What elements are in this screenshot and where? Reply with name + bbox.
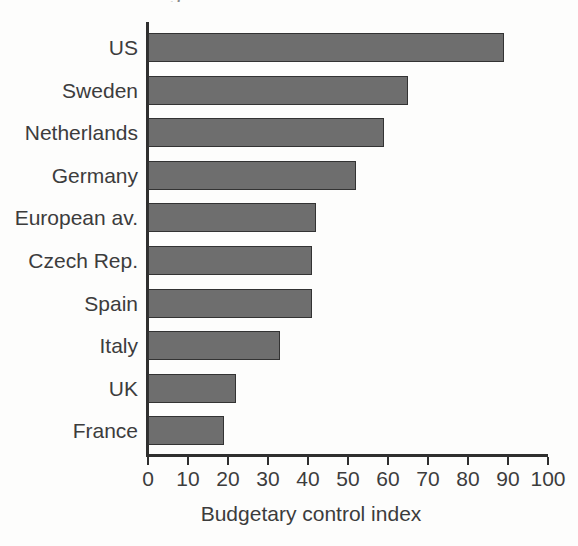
category-label: Czech Rep.	[28, 246, 138, 275]
category-label: Spain	[84, 289, 138, 318]
value-axis-tick-label: 40	[296, 466, 319, 492]
value-axis-tick	[147, 457, 149, 465]
value-axis-tick	[347, 457, 349, 465]
value-axis-tick-label: 80	[456, 466, 479, 492]
bar-row: Germany	[0, 154, 578, 197]
cropped-title-glyph: g	[169, 0, 199, 2]
value-axis-tick	[387, 457, 389, 465]
value-axis-tick	[307, 457, 309, 465]
bar	[148, 33, 504, 62]
category-label: UK	[109, 374, 138, 403]
bar-row: UK	[0, 367, 578, 410]
bar-chart-figure: g 0102030405060708090100 USSwedenNetherl…	[0, 0, 578, 546]
value-axis-tick-label: 100	[530, 466, 565, 492]
bar-row: US	[0, 26, 578, 69]
value-axis-tick	[427, 457, 429, 465]
value-axis-tick-label: 0	[142, 466, 154, 492]
bar	[148, 118, 384, 147]
value-axis-tick	[267, 457, 269, 465]
bar-row: Netherlands	[0, 111, 578, 154]
bar-row: Spain	[0, 282, 578, 325]
value-axis-tick	[187, 457, 189, 465]
value-axis-tick	[227, 457, 229, 465]
bar-row: France	[0, 409, 578, 452]
value-axis-tick	[467, 457, 469, 465]
bar	[148, 374, 236, 403]
category-label: France	[73, 416, 138, 445]
category-label: Italy	[99, 331, 138, 360]
value-axis-tick-label: 30	[256, 466, 279, 492]
bar	[148, 203, 316, 232]
bar-row: Italy	[0, 324, 578, 367]
value-axis-tick	[507, 457, 509, 465]
value-axis-tick-label: 50	[336, 466, 359, 492]
value-axis-tick-label: 10	[176, 466, 199, 492]
value-axis-tick	[547, 457, 549, 465]
category-label: Sweden	[62, 76, 138, 105]
category-label: European av.	[15, 203, 138, 232]
bar	[148, 246, 312, 275]
x-axis-title: Budgetary control index	[0, 500, 578, 528]
bar-row: Czech Rep.	[0, 239, 578, 282]
bar	[148, 331, 280, 360]
bar	[148, 289, 312, 318]
value-axis-tick-label: 70	[416, 466, 439, 492]
value-axis-tick-label: 60	[376, 466, 399, 492]
bar	[148, 416, 224, 445]
bar-row: Sweden	[0, 69, 578, 112]
value-axis-tick-label: 20	[216, 466, 239, 492]
bar	[148, 76, 408, 105]
category-label: US	[109, 33, 138, 62]
bar-row: European av.	[0, 196, 578, 239]
bar	[148, 161, 356, 190]
value-axis-tick-label: 90	[496, 466, 519, 492]
category-label: Germany	[52, 161, 138, 190]
category-label: Netherlands	[25, 118, 138, 147]
